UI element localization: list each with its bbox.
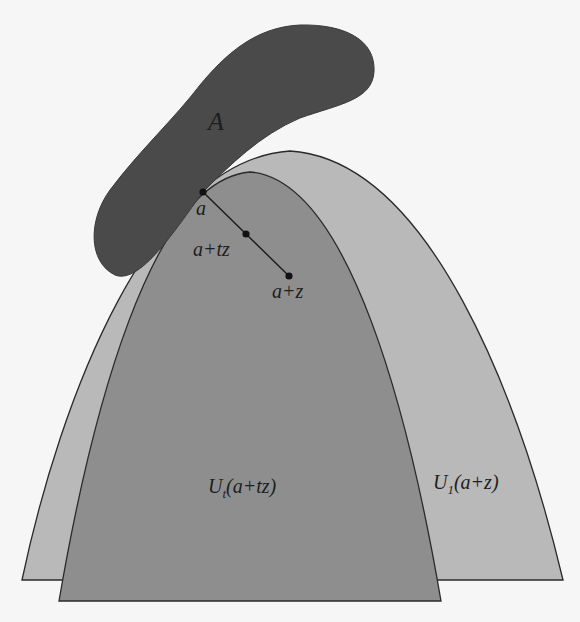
label-point-atz: a+tz xyxy=(193,238,230,260)
diagram-canvas: A a a+tz a+z Ut(a+tz) U1(a+z) xyxy=(0,0,580,622)
point-atz-marker xyxy=(242,230,249,237)
label-set-a: A xyxy=(206,107,224,136)
diagram-svg: A a a+tz a+z Ut(a+tz) U1(a+z) xyxy=(0,0,580,622)
label-point-az: a+z xyxy=(272,280,303,302)
point-a-marker xyxy=(199,188,206,195)
label-region-outer-arg: (a+z) xyxy=(454,471,499,494)
point-az-marker xyxy=(285,272,292,279)
label-point-a: a xyxy=(196,197,206,219)
label-region-inner-arg: (a+tz) xyxy=(226,475,276,498)
